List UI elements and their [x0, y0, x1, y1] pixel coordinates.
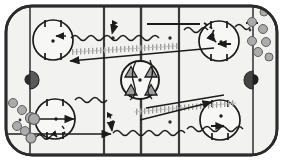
player-marker [13, 122, 22, 131]
player-marker [9, 99, 18, 108]
faceoff-dot [219, 114, 222, 117]
faceoff-dot [51, 39, 54, 42]
player-at-left-faceoff [29, 114, 40, 125]
player-marker [248, 37, 257, 46]
rink-svg [0, 0, 283, 161]
player-marker [26, 133, 36, 143]
puck-marker [19, 119, 22, 122]
player-marker [259, 25, 268, 34]
neutral-dot-lower-right [168, 120, 171, 123]
player-marker [265, 53, 273, 61]
center-faceoff-circle [121, 60, 159, 100]
player-marker [18, 106, 27, 115]
puck-marker [249, 29, 252, 32]
player-marker [248, 18, 257, 27]
faceoff-circle-top-left [33, 20, 73, 60]
player-marker [254, 48, 263, 57]
rink-diagram-canvas [0, 0, 283, 161]
center-faceoff-dot [138, 78, 141, 81]
neutral-dot-upper-right [168, 36, 171, 39]
player-marker [262, 38, 271, 47]
